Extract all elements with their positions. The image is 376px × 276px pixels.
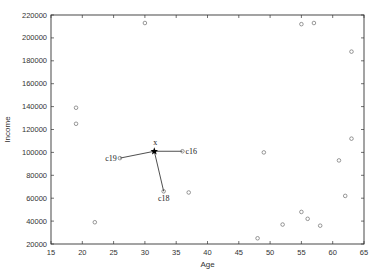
x-tick-label: 25 [109,248,117,257]
y-tick-label: 140000 [22,102,47,111]
x-tick-label: 15 [47,248,55,257]
data-point [143,21,147,25]
point-label-c18: c18 [158,194,170,203]
data-point [350,137,354,141]
y-tick-label: 200000 [22,33,47,42]
data-point [306,217,310,221]
data-point [337,159,341,163]
data-point [300,210,304,214]
y-tick-label: 80000 [26,171,47,180]
data-point [312,21,316,25]
y-tick-label: 40000 [26,217,47,226]
x-tick-label: 20 [78,248,86,257]
y-tick-label: 60000 [26,194,47,203]
data-point [262,151,266,155]
neighbor-line [120,151,154,158]
x-tick-label: 55 [297,248,305,257]
x-tick-label: 65 [360,248,368,257]
query-point-label: x [153,138,157,147]
data-point [318,224,322,228]
x-tick-label: 45 [235,248,243,257]
y-tick-label: 20000 [26,240,47,249]
y-tick-label: 220000 [22,11,47,20]
data-point [93,220,97,224]
y-tick-label: 180000 [22,56,47,65]
data-point [350,50,354,54]
y-tick-label: 160000 [22,79,47,88]
data-point [74,106,78,110]
data-point [343,194,347,198]
x-tick-label: 40 [203,248,211,257]
data-point [187,191,191,195]
x-axis-label: Age [200,260,215,269]
scatter-chart: 1520253035404550556065200004000060000800… [0,0,376,276]
point-label-c16: c16 [185,147,197,156]
data-point [74,122,78,126]
data-point [300,22,304,26]
query-point-star-icon [150,147,158,154]
data-point [256,236,260,240]
x-tick-label: 50 [266,248,274,257]
x-tick-label: 35 [172,248,180,257]
y-tick-label: 100000 [22,148,47,157]
plot-frame [51,15,364,244]
x-tick-label: 30 [141,248,149,257]
point-label-c19: c19 [105,154,117,163]
x-tick-label: 60 [329,248,337,257]
neighbor-line [154,151,163,191]
y-tick-label: 120000 [22,125,47,134]
data-point [281,223,285,227]
y-axis-label: Income [3,116,12,143]
